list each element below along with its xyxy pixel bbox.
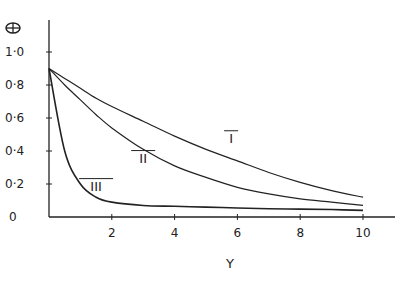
curve-label: II	[139, 151, 147, 166]
x-tick-label: 4	[171, 226, 179, 240]
x-tick-label: 10	[355, 226, 370, 240]
y-tick-label: 1·0	[5, 45, 24, 59]
x-tick-label: 2	[108, 226, 116, 240]
y-tick-label: 0·8	[5, 78, 24, 92]
y-tick-label: 0·4	[5, 144, 24, 158]
curve-label: III	[90, 179, 102, 194]
y-tick-label: 0	[9, 210, 17, 224]
theta-icon	[6, 23, 20, 33]
x-tick-label: 8	[296, 226, 304, 240]
curve-label: I	[229, 131, 233, 146]
x-tick-label: 6	[234, 226, 242, 240]
line-chart: 24681000·20·40·60·81·0YIIIIII	[0, 0, 408, 285]
y-tick-label: 0·2	[5, 177, 24, 191]
x-axis-label: Y	[225, 256, 234, 271]
y-tick-label: 0·6	[5, 111, 24, 125]
